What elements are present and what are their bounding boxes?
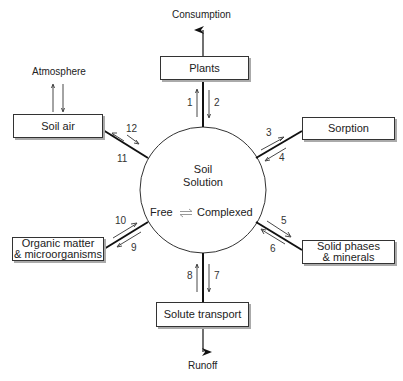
soil-solution-line2: Solution [173,176,233,189]
solute-transport-box: Solute transport [156,302,249,327]
flow-2: 2 [214,97,220,108]
soil-solution-title: Soil Solution [173,163,233,189]
complexed-label: Complexed [197,206,253,218]
flow-5: 5 [281,215,287,226]
free-label: Free [150,206,173,218]
organic-matter-box: Organic matter & microorganisms [12,237,104,261]
consumption-label: Consumption [172,9,231,20]
flow-4: 4 [279,152,285,163]
sorption-box: Sorption [302,117,395,140]
solid-phases-line2: & minerals [323,252,375,263]
sorption-label: Sorption [328,123,369,134]
soil-air-label: Soil air [41,121,75,132]
flow-6: 6 [270,243,276,254]
flow-9: 9 [131,242,137,253]
flow-1: 1 [187,97,193,108]
soil-solution-circle [140,127,266,253]
flow-10: 10 [115,215,126,226]
plants-label: Plants [189,63,220,74]
plants-box: Plants [160,56,249,80]
flow-3: 3 [266,127,272,138]
flow-12: 12 [126,123,137,134]
solid-phases-box: Solid phases & minerals [302,240,395,264]
soil-air-box: Soil air [13,114,103,138]
runoff-label: Runoff [188,360,217,371]
organic-line2: & microorganisms [14,249,102,260]
flow-11: 11 [117,153,127,164]
atmosphere-label: Atmosphere [32,66,86,77]
soil-solution-line1: Soil [173,163,233,176]
connector-solid [256,222,302,250]
flow-8: 8 [187,270,193,281]
connector-organic [104,222,148,249]
solute-transport-label: Solute transport [164,309,242,320]
flow-7: 7 [214,270,220,281]
